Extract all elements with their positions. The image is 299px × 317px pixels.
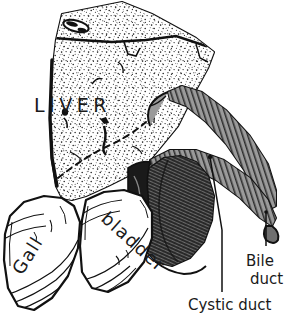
cystic-duct-label: Cystic duct	[188, 296, 272, 314]
bile-duct-leader-dot	[264, 210, 268, 214]
liver-gallbladder-illustration: LIVER Gall bladder Bile duct Cystic duct	[0, 0, 299, 317]
cystic-duct-leader-dot	[208, 155, 212, 159]
bile-duct-label-line2: duct	[250, 270, 283, 288]
anatomical-figure: LIVER Gall bladder Bile duct Cystic duct	[0, 0, 299, 317]
liver-label: LIVER	[34, 94, 111, 116]
bile-duct-label-line1: Bile	[246, 252, 274, 270]
